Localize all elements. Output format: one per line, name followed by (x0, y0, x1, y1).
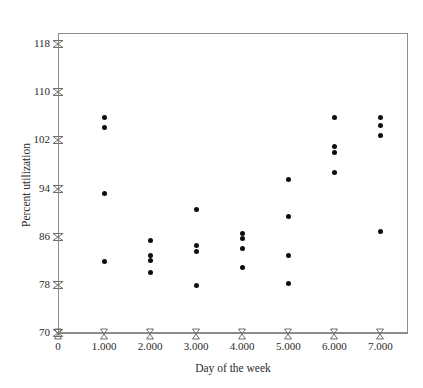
data-point (378, 115, 383, 120)
data-point (286, 214, 291, 219)
data-point (240, 246, 245, 251)
data-point (148, 270, 153, 275)
y-axis-tick-mark (52, 184, 64, 193)
data-point (378, 133, 383, 138)
data-point (286, 253, 291, 258)
data-point (148, 253, 153, 258)
x-axis-line (58, 333, 408, 334)
y-axis-tick-mark (52, 88, 64, 97)
data-point (286, 177, 291, 182)
x-axis-tick-mark (330, 328, 339, 340)
x-axis-tick-mark (54, 328, 63, 340)
x-axis-tick-mark (192, 328, 201, 340)
x-axis-tick-mark (284, 328, 293, 340)
data-point (148, 238, 153, 243)
y-axis-tick-label: 70 (0, 327, 50, 338)
x-axis-tick-mark (146, 328, 155, 340)
y-axis-tick-label: 78 (0, 279, 50, 290)
y-axis-title: Percent utilization (20, 95, 32, 275)
data-point (148, 258, 153, 263)
x-axis-tick-label: 7.000 (350, 340, 410, 352)
x-axis-tick-mark (238, 328, 247, 340)
data-point (194, 283, 199, 288)
y-axis-tick-mark (52, 136, 64, 145)
data-point (240, 236, 245, 241)
x-axis-title: Day of the week (58, 362, 408, 374)
x-axis-tick-mark (376, 328, 385, 340)
data-point (240, 231, 245, 236)
data-point (102, 115, 107, 120)
data-point (332, 144, 337, 149)
data-point (194, 243, 199, 248)
data-point (286, 281, 291, 286)
data-point (332, 170, 337, 175)
data-point (332, 150, 337, 155)
y-axis-tick-mark (52, 40, 64, 49)
data-point (332, 115, 337, 120)
data-point (194, 207, 199, 212)
scatter-chart: 70788694102110118 01.0002.0003.0004.0005… (0, 0, 423, 388)
data-point (240, 265, 245, 270)
y-axis-tick-mark (52, 232, 64, 241)
x-axis-tick-mark (100, 328, 109, 340)
plot-area-frame (58, 33, 408, 333)
data-point (102, 125, 107, 130)
data-point (194, 249, 199, 254)
y-axis-tick-mark (52, 280, 64, 289)
y-axis-tick-label: 118 (0, 38, 50, 49)
